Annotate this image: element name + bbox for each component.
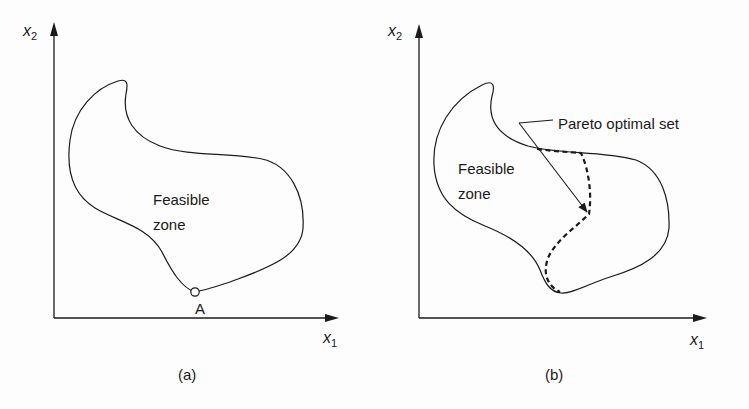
x-axis-arrowhead-a (325, 314, 339, 322)
pareto-annotation-label: Pareto optimal set (558, 115, 680, 132)
feasible-region-a (69, 80, 303, 292)
y-axis-arrowhead-b (415, 24, 423, 38)
point-a-label: A (195, 300, 205, 317)
y-axis-arrowhead-a (50, 22, 58, 36)
y-axis-label-b: x2 (387, 22, 402, 42)
panel-b: Pareto optimal set Feasible zone x2 x1 (… (387, 22, 707, 383)
feasible-label-b-line1: Feasible (458, 160, 515, 177)
x-axis-arrowhead-b (693, 314, 707, 322)
point-a-marker (191, 288, 199, 296)
feasible-label-a-line2: zone (153, 216, 186, 233)
x-axis-label-b: x1 (689, 331, 704, 351)
caption-a: (a) (178, 366, 196, 383)
y-axis-label-a: x2 (22, 22, 37, 42)
diagram-canvas: A Feasible zone x2 x1 (a) Pareto optimal… (0, 0, 749, 409)
pareto-diagram: A Feasible zone x2 x1 (a) Pareto optimal… (0, 0, 749, 409)
caption-b: (b) (545, 366, 563, 383)
annotation-arrow (519, 123, 587, 212)
annotation-leader-line (519, 120, 553, 123)
feasible-label-b-line2: zone (458, 185, 491, 202)
pareto-optimal-set-curve (537, 149, 590, 292)
feasible-label-a-line1: Feasible (153, 191, 210, 208)
panel-a: A Feasible zone x2 x1 (a) (22, 22, 339, 383)
x-axis-label-a: x1 (322, 329, 337, 349)
